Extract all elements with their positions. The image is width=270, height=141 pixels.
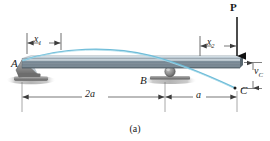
label-dim-span-ab: 2a (85, 89, 95, 99)
beam (22, 56, 243, 69)
label-deflection-vc: vC (254, 66, 263, 79)
label-load-p: P (230, 2, 237, 13)
label-dim-x1: x1 (34, 35, 41, 46)
dim-x1 (27, 33, 61, 54)
label-support-b: B (140, 75, 147, 86)
label-support-a: A (11, 58, 18, 69)
label-dim-x1-subscript: 1 (38, 39, 41, 46)
label-dim-x2-subscript: 2 (211, 42, 214, 49)
label-dim-span-bc: a (196, 90, 201, 100)
figure-caption: (a) (0, 124, 270, 134)
dim-x2 (200, 36, 236, 56)
diagram-canvas (0, 0, 270, 141)
beam-deflection-figure: A B C P x1 x2 2a a vC (a) (0, 0, 270, 141)
label-deflection-subscript: C (258, 71, 263, 78)
dim-span-lines (22, 82, 237, 112)
deflection-curve (23, 49, 237, 89)
label-dim-x2: x2 (207, 38, 214, 49)
label-point-c: C (240, 85, 247, 96)
